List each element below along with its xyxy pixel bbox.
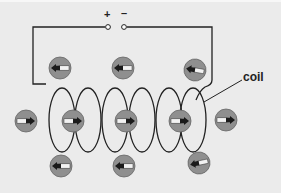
compass-top-left — [49, 57, 71, 79]
compass-inside-2 — [115, 110, 137, 132]
compass-inside-1 — [62, 110, 84, 132]
compass-bottom-middle — [113, 155, 135, 177]
coil-label: coil — [243, 70, 264, 84]
negative-terminal — [122, 25, 127, 30]
solenoid-diagram — [0, 0, 281, 193]
compass-outside-left — [15, 110, 37, 132]
compass-inside-3 — [169, 110, 191, 132]
compass-outside-right — [215, 109, 237, 131]
compass-top-middle — [112, 57, 134, 79]
negative-terminal-label: – — [121, 7, 127, 19]
positive-terminal-label: + — [104, 8, 110, 20]
positive-terminal — [106, 25, 111, 30]
compass-bottom-left — [50, 155, 72, 177]
